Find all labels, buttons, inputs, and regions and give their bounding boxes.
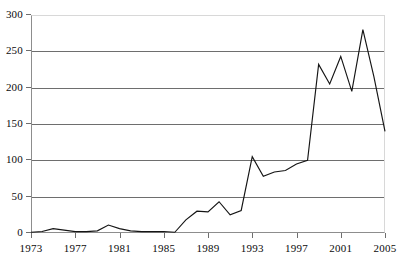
line-chart: 050100150200250300 197319771981198519891…: [0, 0, 397, 261]
y-tick-label-250: 250: [6, 45, 23, 56]
y-tick-label-300: 300: [6, 9, 23, 20]
x-tick-label-2001: 2001: [329, 243, 352, 254]
x-tick-mark-2001: [341, 233, 342, 238]
x-tick-mark-1985: [164, 233, 165, 238]
y-tick-label-50: 50: [12, 191, 23, 202]
y-tick-mark-200: [26, 87, 31, 88]
y-tick-mark-100: [26, 159, 31, 160]
y-tick-mark-250: [26, 50, 31, 51]
y-tick-label-150: 150: [6, 118, 23, 129]
x-tick-label-1997: 1997: [285, 243, 308, 254]
y-tick-label-100: 100: [6, 154, 23, 165]
x-tick-mark-1981: [120, 233, 121, 238]
x-tick-label-1989: 1989: [197, 243, 220, 254]
x-tick-label-1977: 1977: [64, 243, 87, 254]
y-tick-mark-50: [26, 196, 31, 197]
x-tick-label-1973: 1973: [20, 243, 43, 254]
y-tick-mark-300: [26, 14, 31, 15]
x-tick-label-1993: 1993: [241, 243, 264, 254]
y-tick-label-200: 200: [6, 82, 23, 93]
series-layer: [31, 15, 385, 233]
x-tick-mark-1997: [297, 233, 298, 238]
series-line-1: [31, 30, 385, 233]
y-tick-mark-150: [26, 123, 31, 124]
x-tick-mark-1973: [31, 233, 32, 238]
x-tick-mark-1977: [75, 233, 76, 238]
x-axis: 197319771981198519891993199720012005: [0, 233, 397, 261]
x-tick-mark-2005: [385, 233, 386, 238]
x-tick-mark-1989: [208, 233, 209, 238]
y-axis: 050100150200250300: [0, 0, 31, 261]
x-tick-label-1985: 1985: [152, 243, 175, 254]
x-tick-mark-1993: [252, 233, 253, 238]
x-tick-label-2005: 2005: [374, 243, 397, 254]
x-tick-label-1981: 1981: [108, 243, 131, 254]
